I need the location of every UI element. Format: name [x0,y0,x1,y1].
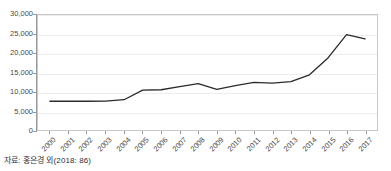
y-tick-label: 15,000 [10,69,33,77]
x-tick-label: 2008 [189,136,206,153]
x-tick-mark [198,131,199,134]
x-tick-label: 2002 [77,136,94,153]
data-series-line [50,35,365,102]
y-tick-mark [33,92,36,93]
x-tick-mark [347,131,348,134]
x-tick-mark [180,131,181,134]
x-tick-mark [105,131,106,134]
y-tick-mark [33,131,36,132]
x-tick-label: 2016 [339,136,356,153]
x-tick-label: 2003 [96,136,113,153]
x-tick-label: 2010 [227,136,244,153]
y-tick-mark [33,53,36,54]
x-tick-mark [273,131,274,134]
x-tick-mark [254,131,255,134]
y-tick-mark [33,112,36,113]
x-tick-mark [310,131,311,134]
x-tick-mark [235,131,236,134]
x-tick-label: 2000 [40,136,57,153]
x-tick-label: 2001 [59,136,76,153]
x-tick-mark [217,131,218,134]
y-axis-labels: 05,00010,00015,00020,00025,00030,000 [0,14,33,131]
x-tick-mark [86,131,87,134]
x-tick-label: 2007 [171,136,188,153]
y-tick-label: 5,000 [14,108,33,116]
x-tick-label: 2006 [152,136,169,153]
y-tick-label: 30,000 [10,10,33,18]
x-tick-mark [329,131,330,134]
y-tick-label: 10,000 [10,88,33,96]
source-note: 자료: 홍은경 외(2018: 86) [4,154,91,165]
y-tick-mark [33,34,36,35]
x-tick-mark [161,131,162,134]
x-tick-mark [49,131,50,134]
x-tick-mark [142,131,143,134]
x-tick-label: 2011 [246,136,263,153]
x-tick-mark [124,131,125,134]
figure-title-clipped [0,0,391,7]
x-tick-mark [366,131,367,134]
x-tick-label: 2014 [301,136,318,153]
y-tick-label: 20,000 [10,49,33,57]
x-tick-label: 2017 [357,136,374,153]
y-tick-mark [33,73,36,74]
line-chart-figure: 05,00010,00015,00020,00025,00030,000 200… [0,7,391,148]
x-tick-label: 2005 [133,136,150,153]
x-tick-label: 2012 [264,136,281,153]
y-tick-label: 25,000 [10,30,33,38]
x-tick-label: 2013 [283,136,300,153]
y-tick-mark [33,14,36,15]
x-tick-mark [68,131,69,134]
x-tick-label: 2009 [208,136,225,153]
data-line-svg [38,15,377,130]
x-tick-label: 2004 [115,136,132,153]
plot-area [37,14,378,131]
x-tick-mark [291,131,292,134]
x-tick-label: 2015 [320,136,337,153]
